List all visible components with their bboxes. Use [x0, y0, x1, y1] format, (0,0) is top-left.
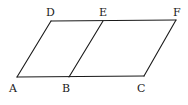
- segment-df: [51, 20, 176, 21]
- segment-ac: [17, 76, 144, 77]
- geometry-diagram: A B C D E F: [0, 0, 188, 105]
- label-b: B: [62, 82, 70, 95]
- label-d: D: [46, 6, 55, 19]
- parallelogram-figure: A B C D E F: [0, 0, 188, 105]
- segment-cf: [144, 20, 176, 76]
- segments: [17, 20, 176, 77]
- label-e: E: [99, 6, 107, 19]
- label-a: A: [8, 82, 18, 95]
- label-f: F: [173, 6, 181, 19]
- segment-be: [69, 21, 103, 77]
- label-c: C: [137, 82, 145, 95]
- vertex-labels: A B C D E F: [8, 6, 181, 95]
- segment-ad: [17, 21, 51, 77]
